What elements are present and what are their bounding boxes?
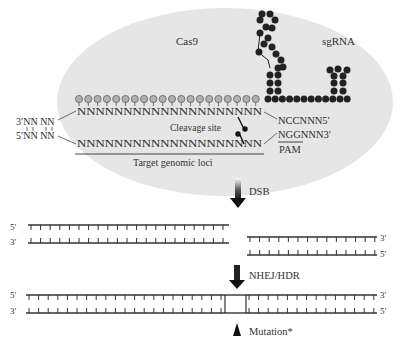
- repaired-right-bottom-end: 5′: [380, 306, 387, 316]
- left-top-flank: 3′NN NN: [16, 116, 55, 127]
- repaired-left-bottom-end: 3′: [10, 306, 17, 316]
- top-strand-sequence: NNNNNNNNNNNNNNNNNNNN: [77, 105, 262, 117]
- bottom-strand-sequence: NNNNNNNNNNNNNNNNNNNN: [77, 137, 262, 149]
- crispr-diagram: Cas9 sgRNA NNNNNNNNNNNNNNNNNNNN NNNNNNNN…: [0, 0, 402, 349]
- dna-fragment-right: [247, 237, 377, 255]
- repaired-right-top-end: 3′: [380, 290, 387, 300]
- frag-right-bottom-end: 5′: [380, 249, 387, 259]
- repaired-dna: [26, 295, 377, 313]
- right-top-flank: NCCNNN5′: [278, 115, 330, 126]
- repair-label: NHEJ/HDR: [249, 270, 300, 281]
- pam-label: PAM: [279, 144, 301, 155]
- cleavage-site-label: Cleavage site: [170, 123, 221, 133]
- frag-right-top-end: 3′: [380, 233, 387, 243]
- frag-left-top-end: 5′: [10, 222, 17, 232]
- dna-fragment-left: [28, 225, 229, 243]
- dsb-label: DSB: [249, 186, 269, 197]
- right-bottom-flank: NGGNNN3′: [278, 129, 331, 140]
- mutation-label: Mutation*: [249, 326, 293, 337]
- mutation-marker-icon: [233, 323, 241, 336]
- repair-arrow-icon: [229, 265, 245, 289]
- target-loci-label: Target genomic loci: [133, 157, 213, 168]
- sgrna-label: sgRNA: [322, 35, 355, 47]
- left-bottom-flank: 5′NN NN: [16, 130, 55, 141]
- repaired-left-top-end: 5′: [10, 290, 17, 300]
- frag-left-bottom-end: 3′: [10, 237, 17, 247]
- cas9-label: Cas9: [176, 35, 199, 47]
